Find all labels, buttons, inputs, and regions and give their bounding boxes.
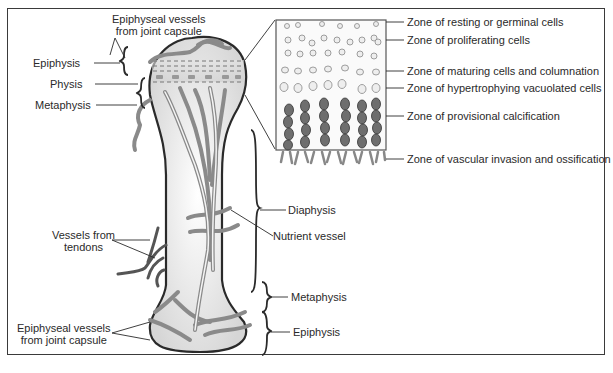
label-zone-provisional-calcification: Zone of provisional calcification — [407, 110, 560, 122]
label-physis: Physis — [50, 78, 82, 90]
label-line-1: Epiphyseal vessels — [17, 322, 111, 334]
label-zone-hypertrophying: Zone of hypertrophying vacuolated cells — [407, 82, 601, 94]
label-line-2: from joint capsule — [17, 334, 111, 346]
label-diaphysis: Diaphysis — [288, 204, 336, 216]
label-line-2: from joint capsule — [112, 25, 206, 37]
bone-illustration — [0, 0, 613, 373]
label-line-1: Vessels from — [52, 229, 115, 241]
label-epiphyseal-vessels-bottom: Epiphyseal vessels from joint capsule — [17, 322, 111, 346]
label-metaphysis-bottom: Metaphysis — [291, 291, 347, 303]
label-epiphyseal-vessels-top: Epiphyseal vessels from joint capsule — [112, 13, 206, 37]
growth-plate-inset — [276, 20, 404, 164]
label-epiphysis-bottom: Epiphysis — [293, 326, 340, 338]
label-zone-proliferating: Zone of proliferating cells — [407, 34, 530, 46]
label-zone-resting: Zone of resting or germinal cells — [407, 16, 564, 28]
label-vessels-from-tendons: Vessels from tendons — [52, 229, 115, 253]
label-nutrient-vessel: Nutrient vessel — [273, 230, 346, 242]
label-zone-maturing: Zone of maturing cells and columnation — [407, 65, 599, 77]
label-zone-vascular-invasion: Zone of vascular invasion and ossificati… — [407, 153, 611, 165]
label-metaphysis-top: Metaphysis — [35, 99, 91, 111]
label-epiphysis-top: Epiphysis — [33, 57, 80, 69]
label-line-1: Epiphyseal vessels — [112, 13, 206, 25]
label-line-2: tendons — [52, 241, 115, 253]
